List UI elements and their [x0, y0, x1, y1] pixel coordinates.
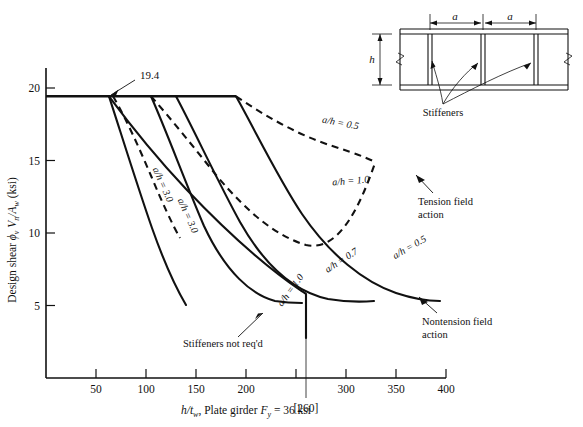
curve-label-solid-ah-0-5: a/h = 0.5: [390, 233, 428, 261]
plateau-callout-group: 19.4: [111, 69, 160, 96]
inset-stiffener-leader-2-arrow: [471, 63, 478, 70]
y-title-prefix: Design shear: [6, 240, 19, 303]
inset-dim-a-left-label: a: [452, 10, 458, 22]
inset-dim-a-right-arrow-end: [529, 21, 536, 26]
x-tick-label-400: 400: [437, 383, 455, 395]
stiffeners-not-req-arrowhead: [255, 313, 263, 319]
inset-stiffener-leader-3: [443, 63, 531, 104]
y-tick-label-20: 20: [29, 82, 41, 94]
nontension-field-annotation: Nontension field action: [419, 297, 493, 340]
y-axis-title: Design shear ϕv Vn/Aw (ksi): [6, 177, 21, 303]
x-title-h-over-t: h/t: [181, 404, 194, 416]
tension-field-arrowhead: [416, 175, 425, 183]
inset-stiffener-leader-1-arrow: [431, 61, 436, 69]
stiffeners-not-required-annotation: Stiffeners not req'd: [183, 313, 264, 349]
marker-260-group: [260]: [294, 338, 319, 414]
stiffeners-not-req-label: Stiffeners not req'd: [183, 338, 264, 349]
x-title-mid: , Plate girder: [198, 404, 260, 417]
inset-stiffener-leader-2: [443, 63, 478, 104]
tension-field-label-line1: Tension field: [418, 196, 474, 207]
plateau-callout-label: 19.4: [140, 69, 160, 81]
chart-svg: 5 10 15 20 50 100 150 200 300 350 400 De…: [0, 0, 583, 427]
inset-dim-a-left-arrow-start: [430, 21, 437, 26]
inset-dim-h-arrow-bottom: [378, 78, 383, 85]
curve-label-dashed-ah-1-0: a/h = 1.0: [332, 173, 370, 187]
x-axis-title: h/tw, Plate girder Fy = 36 ksi: [181, 404, 311, 419]
curve-label-dashed-ah-0-5: a/h = 0.5: [321, 114, 359, 132]
x-tick-label-300: 300: [337, 383, 355, 395]
x-tick-label-350: 350: [387, 383, 405, 395]
y-title-units: (ksi): [6, 177, 19, 201]
stiffeners-not-req-leader: [238, 313, 263, 337]
y-tick-label-5: 5: [34, 300, 40, 312]
inset-dim-a-right-label: a: [507, 10, 513, 22]
nontension-field-label-line1: Nontension field: [422, 316, 493, 327]
inset-dim-a-right-arrow-start: [485, 21, 492, 26]
inset-stiffener-leader-1: [432, 61, 443, 104]
inset-dim-a-left-arrow-end: [474, 21, 481, 26]
nontension-field-label-line2: action: [422, 329, 448, 340]
plate-girder-design-shear-figure: 5 10 15 20 50 100 150 200 300 350 400 De…: [0, 0, 583, 427]
inset-stiffeners-label: Stiffeners: [423, 107, 464, 118]
inset-dim-h-arrow-top: [378, 34, 383, 41]
x-tick-label-150: 150: [187, 383, 205, 395]
inset-plate-girder-diagram: a a h Stiffeners: [369, 10, 572, 118]
x-tick-label-50: 50: [90, 383, 102, 395]
curve-label-solid-ah-3-0: a/h = 3.0: [176, 196, 201, 234]
tension-field-label-line2: action: [418, 209, 444, 220]
curve-label-group: a/h = 3.0 a/h = 3.0 a/h = 1.0 a/h = 0.7 …: [151, 114, 428, 309]
y-tick-label-10: 10: [29, 227, 41, 239]
svg-text:Design shear ϕv Vn/Aw (ksi): Design shear ϕv Vn/Aw (ksi): [6, 177, 21, 303]
x-tick-label-200: 200: [237, 383, 255, 395]
marker-260-label: [260]: [294, 402, 319, 414]
y-tick-label-15: 15: [29, 155, 41, 167]
tension-field-annotation: Tension field action: [416, 175, 474, 220]
inset-dim-h-label: h: [369, 53, 375, 65]
x-tick-label-100: 100: [137, 383, 155, 395]
curve-solid-ah-3-0: [109, 96, 186, 305]
plateau-callout-arrowhead: [111, 90, 119, 96]
